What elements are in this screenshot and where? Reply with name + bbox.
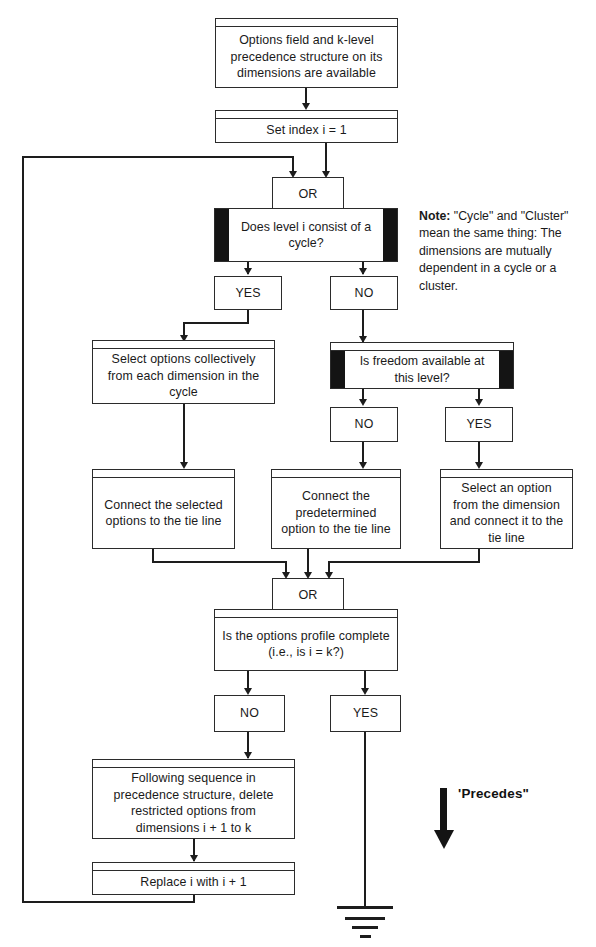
edge-complete-yes-to-ground	[364, 732, 366, 907]
arrowhead-complete-yes	[361, 688, 369, 695]
node-decision-cycle: Does level i consist of a cycle?	[214, 208, 398, 262]
node-or-bottom-label: OR	[298, 587, 317, 604]
arrowhead-replace-i	[190, 855, 198, 862]
decision-cap-left-icon	[215, 209, 229, 261]
node-decision-complete-label: Is the options profile complete (i.e., i…	[221, 628, 391, 661]
feedback-top-rail	[22, 156, 294, 158]
arrowhead-delete-restricted	[244, 752, 252, 759]
arrowhead-freedom-no	[359, 399, 367, 406]
precedes-arrow-shaft-icon	[440, 788, 447, 832]
node-complete-no: NO	[214, 695, 285, 732]
node-decision-complete: Is the options profile complete (i.e., i…	[214, 609, 398, 671]
node-freedom-yes: YES	[445, 407, 513, 442]
node-connect-predetermined: Connect the predetermined option to the …	[271, 469, 401, 549]
arrowhead-connect-selected	[180, 462, 188, 469]
node-freedom-no-label: NO	[355, 416, 374, 433]
precedes-arrow-head-icon	[434, 830, 454, 849]
decision-cap-right-icon	[383, 209, 397, 261]
arrowhead-select-and-connect	[475, 462, 483, 469]
note-label: Note:	[419, 209, 450, 223]
edge-collectively-to-connect	[183, 404, 185, 466]
node-set-index-label: Set index i = 1	[266, 122, 346, 139]
flowchart-canvas: Options field and k-level precedence str…	[0, 0, 596, 947]
arrowhead-freedom-yes	[475, 399, 483, 406]
node-delete-restricted-label: Following sequence in precedence structu…	[99, 770, 288, 836]
node-complete-no-label: NO	[240, 705, 259, 722]
node-select-and-connect: Select an option from the dimension and …	[440, 469, 573, 549]
node-cycle-yes: YES	[214, 276, 282, 310]
arrowhead-connect-predetermined	[359, 462, 367, 469]
node-decision-freedom: Is freedom available at this level?	[330, 350, 514, 389]
node-or-bottom: OR	[272, 578, 344, 612]
node-or-top-label: OR	[298, 186, 317, 203]
node-select-and-connect-label: Select an option from the dimension and …	[447, 480, 566, 546]
arrowhead-complete-no	[244, 688, 252, 695]
decision-freedom-cap-right-icon	[499, 351, 513, 388]
node-decision-cycle-label: Does level i consist of a cycle?	[215, 219, 397, 252]
node-connect-predetermined-label: Connect the predetermined option to the …	[278, 488, 394, 538]
edge-merge-right-across	[328, 561, 480, 563]
edge-merge-center	[307, 549, 309, 574]
node-freedom-no: NO	[330, 407, 398, 442]
ground-bar-4-icon	[360, 935, 371, 938]
node-select-collectively-label: Select options collectively from each di…	[99, 351, 268, 401]
node-cycle-no: NO	[330, 276, 398, 310]
feedback-bottom-rail	[22, 901, 194, 903]
node-connect-selected-label: Connect the selected options to the tie …	[99, 497, 228, 530]
node-replace-i: Replace i with i + 1	[92, 862, 295, 895]
arrowhead-cycle-yes	[244, 268, 252, 275]
arrowhead-set-index	[302, 103, 310, 110]
edge-set-index-to-or	[325, 143, 327, 173]
ground-bar-1-icon	[337, 906, 393, 909]
node-complete-yes-label: YES	[353, 705, 378, 722]
note-block: Note: "Cycle" and "Cluster" mean the sam…	[419, 208, 587, 295]
node-cycle-no-label: NO	[355, 285, 374, 302]
node-replace-i-label: Replace i with i + 1	[140, 874, 246, 891]
node-delete-restricted: Following sequence in precedence structu…	[92, 759, 295, 839]
node-select-collectively: Select options collectively from each di…	[92, 340, 275, 404]
edge-yes-across	[183, 322, 249, 324]
feedback-left-rail	[22, 156, 24, 903]
node-cycle-yes-label: YES	[235, 285, 260, 302]
decision-freedom-cap-left-icon	[331, 351, 345, 388]
node-connect-selected: Connect the selected options to the tie …	[92, 469, 235, 549]
ground-bar-2-icon	[345, 917, 385, 920]
arrowhead-cycle-no	[359, 268, 367, 275]
ground-bar-3-icon	[352, 926, 378, 929]
edge-merge-left-across	[152, 561, 287, 563]
edge-replace-to-feedback	[193, 895, 195, 903]
node-start: Options field and k-level precedence str…	[215, 18, 398, 88]
node-complete-yes: YES	[330, 695, 401, 732]
precedes-label: 'Precedes"	[458, 786, 529, 801]
node-or-top: OR	[272, 177, 344, 211]
node-start-label: Options field and k-level precedence str…	[222, 32, 391, 82]
node-freedom-yes-label: YES	[466, 416, 491, 433]
node-set-index: Set index i = 1	[215, 110, 398, 143]
node-decision-freedom-label: Is freedom available at this level?	[331, 353, 513, 386]
